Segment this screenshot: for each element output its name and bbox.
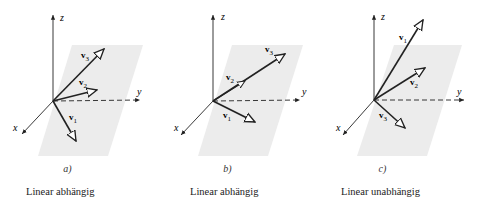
panel-caption: c)	[303, 163, 462, 174]
vector-label-v1: v1	[399, 32, 407, 45]
vector-diagram-a	[0, 0, 159, 207]
y-axis-label: y	[137, 86, 141, 97]
x-axis-label: x	[174, 122, 178, 133]
vector-label-v2: v2	[410, 77, 418, 90]
y-axis-label: y	[302, 86, 306, 97]
panel-verdict: Linear abhängig	[190, 186, 259, 197]
y-axis-label: y	[457, 86, 461, 97]
panel-verdict: Linear unabhängig	[341, 186, 420, 197]
panel-c: z y x v1 v2 v3 c) Linear unabhängig	[317, 0, 476, 207]
panel-caption: a)	[0, 163, 147, 174]
x-axis-label: x	[336, 122, 340, 133]
panel-a: z y x v3 v2 v1 a) Linear abhängig	[0, 0, 159, 207]
x-axis-label: x	[13, 122, 17, 133]
vector-label-v2: v2	[226, 72, 234, 85]
plane	[357, 45, 462, 156]
vector-label-v3: v3	[265, 44, 273, 57]
vector-label-v1: v1	[223, 110, 231, 123]
vector-label-v1: v1	[69, 112, 77, 125]
panel-b: z y x v3 v2 v1 b) Linear abhängig	[160, 0, 319, 207]
vector-diagram-c	[317, 0, 477, 207]
z-axis-label: z	[381, 11, 385, 22]
vector-diagram-b	[160, 0, 319, 207]
vector-label-v2: v2	[79, 77, 87, 90]
panel-verdict: Linear abhängig	[26, 186, 95, 197]
z-axis-label: z	[221, 11, 225, 22]
vector-label-v3: v3	[81, 50, 89, 63]
vector-label-v3: v3	[379, 110, 387, 123]
z-axis-label: z	[60, 12, 64, 23]
panel-caption: b)	[148, 163, 307, 174]
